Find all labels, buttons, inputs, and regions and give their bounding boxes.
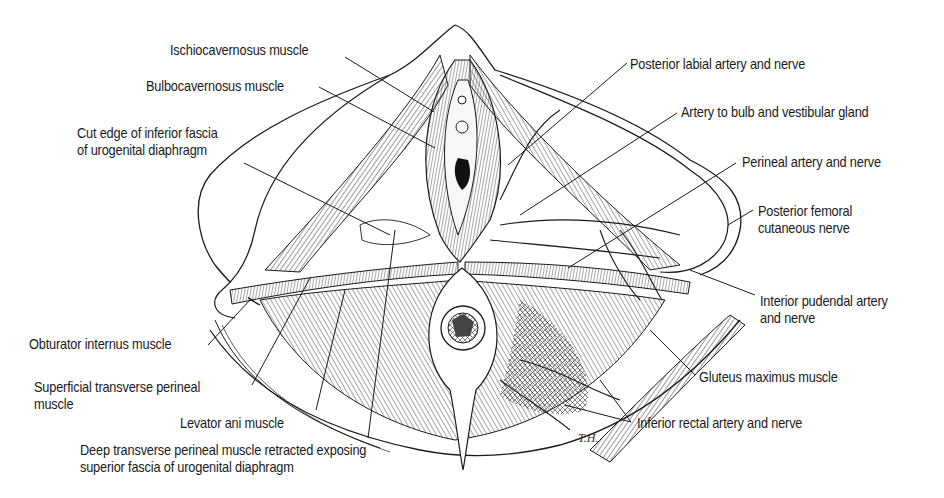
label-perineal-artery: Perineal artery and nerve xyxy=(742,154,881,171)
label-posterior-femoral-line2: cutaneous nerve xyxy=(758,220,852,237)
urethral-orifice xyxy=(456,121,468,133)
label-pudendal: Interior pudendal artery and nerve xyxy=(760,293,905,327)
label-cut-edge-line2: of urogenital diaphragm xyxy=(77,142,218,159)
label-posterior-femoral: Posterior femoral cutaneous nerve xyxy=(758,203,865,237)
label-inferior-rectal: Inferior rectal artery and nerve xyxy=(637,415,802,432)
label-cut-edge-line1: Cut edge of inferior fascia xyxy=(77,125,218,142)
label-gluteus-maximus: Gluteus maximus muscle xyxy=(699,369,838,386)
label-pudendal-line2: and nerve xyxy=(760,310,888,327)
external-anal-sphincter xyxy=(429,268,497,470)
label-superficial-transverse: Superficial transverse perineal muscle xyxy=(34,379,223,413)
label-posterior-femoral-line1: Posterior femoral xyxy=(758,203,852,220)
label-artery-to-bulb: Artery to bulb and vestibular gland xyxy=(681,104,868,121)
label-posterior-labial: Posterior labial artery and nerve xyxy=(630,56,805,73)
label-obturator-internus: Obturator internus muscle xyxy=(29,336,171,353)
anatomy-figure: T.H. Ischiocavernosus muscle Bulbocavern… xyxy=(0,0,944,498)
label-cut-edge: Cut edge of inferior fascia of urogenita… xyxy=(77,125,237,159)
label-superficial-transverse-line2: muscle xyxy=(34,396,200,413)
label-deep-transverse-line1: Deep transverse perineal muscle retracte… xyxy=(80,442,366,459)
clitoris xyxy=(458,96,466,104)
label-pudendal-line1: Interior pudendal artery xyxy=(760,293,888,310)
label-superficial-transverse-line1: Superficial transverse perineal xyxy=(34,379,200,396)
label-deep-transverse: Deep transverse perineal muscle retracte… xyxy=(80,442,405,476)
artist-signature: T.H. xyxy=(578,431,598,445)
label-levator-ani: Levator ani muscle xyxy=(180,415,284,432)
label-bulbocavernosus: Bulbocavernosus muscle xyxy=(146,78,284,95)
label-deep-transverse-line2: superior fascia of urogenital diaphragm xyxy=(80,459,366,476)
label-ischiocavernosus: Ischiocavernosus muscle xyxy=(170,42,309,59)
